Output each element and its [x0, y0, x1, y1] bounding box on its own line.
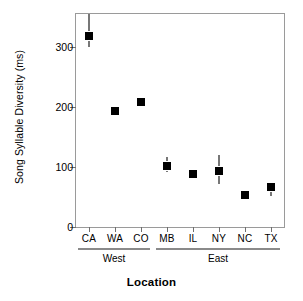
- x-tick-mark: [193, 227, 194, 232]
- group-label: West: [103, 253, 126, 264]
- x-tick-label: NC: [238, 233, 253, 244]
- x-tick-mark: [115, 227, 116, 232]
- group-underline: [156, 248, 280, 250]
- data-point-marker: [188, 169, 198, 179]
- group-underline: [78, 248, 150, 250]
- x-tick-mark: [271, 227, 272, 232]
- x-tick-label: CO: [133, 233, 148, 244]
- data-point-marker: [240, 190, 250, 200]
- x-tick-label: MB: [159, 233, 174, 244]
- y-tick-label: 200: [55, 101, 73, 113]
- x-axis-title: Location: [0, 276, 303, 288]
- y-tick-label: 0: [67, 221, 73, 233]
- data-point-marker: [84, 31, 94, 41]
- group-label: East: [208, 253, 228, 264]
- data-point-marker: [136, 97, 146, 107]
- y-tick-label: 300: [55, 41, 73, 53]
- x-tick-label: TX: [264, 233, 277, 244]
- data-point-marker: [162, 161, 172, 171]
- x-tick-label: WA: [107, 233, 123, 244]
- x-tick-mark: [167, 227, 168, 232]
- data-point-marker: [110, 106, 120, 116]
- y-tick-label: 100: [55, 161, 73, 173]
- y-axis-title: Song Syllable Diversity (ms): [10, 2, 28, 232]
- data-series: [76, 14, 284, 227]
- x-tick-mark: [89, 227, 90, 232]
- chart-figure: Song Syllable Diversity (ms) 0100200300 …: [0, 0, 303, 301]
- x-tick-mark: [245, 227, 246, 232]
- x-tick-label: CA: [82, 233, 96, 244]
- x-tick-mark: [219, 227, 220, 232]
- data-point-marker: [214, 166, 224, 176]
- x-tick-mark: [141, 227, 142, 232]
- x-tick-label: NY: [212, 233, 226, 244]
- x-tick-label: IL: [189, 233, 198, 244]
- data-point-marker: [266, 182, 276, 192]
- plot-area: 0100200300 CAWACOMBILNYNCTX: [75, 13, 285, 228]
